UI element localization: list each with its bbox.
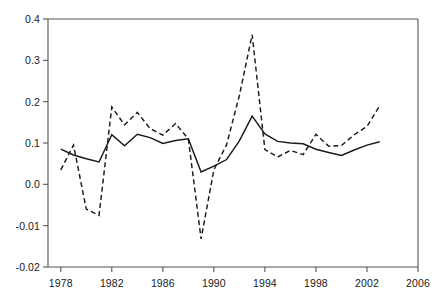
x-tick-marks xyxy=(61,267,418,272)
y-tick-label: 0.4 xyxy=(4,14,40,25)
plot-canvas xyxy=(0,0,446,300)
x-tick-label: 1986 xyxy=(151,278,175,289)
x-tick-label: 1982 xyxy=(100,278,124,289)
data-series-layer xyxy=(61,35,380,239)
x-tick-label: 1994 xyxy=(253,278,277,289)
line-chart-figure: -0.02-0.010.00.10.20.30.4 19781982198619… xyxy=(0,0,446,300)
y-tick-label: -0.01 xyxy=(4,220,40,231)
axes-spines xyxy=(48,19,418,267)
x-tick-label: 1998 xyxy=(304,278,328,289)
x-tick-label: 1990 xyxy=(202,278,226,289)
x-tick-label: 2006 xyxy=(406,278,430,289)
y-tick-label: 0.3 xyxy=(4,55,40,66)
y-tick-label: -0.02 xyxy=(4,262,40,273)
x-tick-label: 1978 xyxy=(49,278,73,289)
y-tick-label: 0.1 xyxy=(4,138,40,149)
solid-series xyxy=(61,116,380,172)
y-tick-label: 0.2 xyxy=(4,96,40,107)
x-tick-label: 2002 xyxy=(355,278,379,289)
dashed-series xyxy=(61,35,380,239)
y-tick-marks xyxy=(43,19,48,267)
y-tick-label: 0.0 xyxy=(4,179,40,190)
